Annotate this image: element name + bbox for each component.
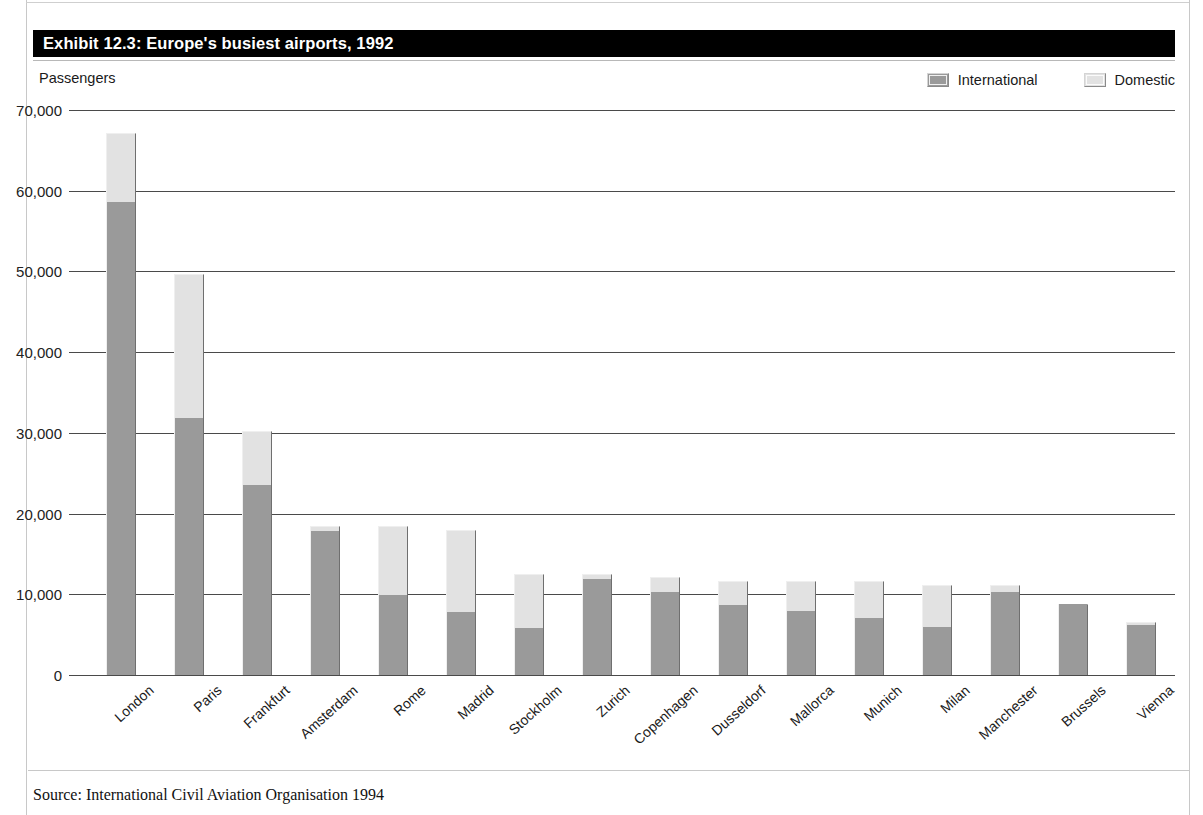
bar-segment-international (855, 618, 883, 675)
y-axis-tick-label: 30,000 (16, 424, 62, 441)
x-axis-label-vienna: Vienna (1134, 682, 1177, 723)
x-axis-label-milan: Milan (937, 682, 973, 716)
bar-amsterdam (310, 526, 340, 675)
bar-madrid (446, 530, 476, 675)
y-axis-title: Passengers (39, 70, 116, 86)
page-border-top (26, 2, 1189, 3)
x-axis-label-london: London (111, 682, 156, 725)
x-axis-label-manchester: Manchester (976, 682, 1041, 743)
bar-segment-domestic (787, 582, 815, 613)
x-axis-label-paris: Paris (190, 682, 224, 715)
title-underline (33, 60, 1175, 61)
exhibit-title-bar: Exhibit 12.3: Europe's busiest airports,… (33, 30, 1175, 57)
bar-paris (174, 274, 204, 675)
y-axis-tick-label: 20,000 (16, 505, 62, 522)
legend-swatch-icon (927, 73, 949, 87)
bar-milan (922, 585, 952, 675)
y-axis-tick-label: 70,000 (16, 102, 62, 119)
x-axis-label-stockholm: Stockholm (505, 682, 564, 738)
bar-mallorca (786, 581, 816, 675)
legend-item: Domestic (1084, 72, 1175, 88)
bar-segment-international (243, 485, 271, 675)
y-axis-tick (69, 675, 87, 676)
x-axis-label-madrid: Madrid (454, 682, 497, 723)
source-divider (28, 770, 1189, 771)
legend-swatch-icon (1084, 73, 1106, 87)
x-axis-label-copenhagen: Copenhagen (630, 682, 700, 748)
x-axis-label-frankfurt: Frankfurt (240, 682, 292, 731)
bar-copenhagen (650, 577, 680, 675)
bar-segment-domestic (447, 531, 475, 613)
y-axis-tick (69, 191, 87, 192)
exhibit-page: Exhibit 12.3: Europe's busiest airports,… (0, 0, 1203, 815)
x-axis-label-mallorca: Mallorca (787, 682, 837, 729)
bar-segment-domestic (651, 578, 679, 593)
bar-segment-international (583, 579, 611, 675)
bar-segment-international (107, 202, 135, 675)
y-axis-tick (69, 352, 87, 353)
bar-segment-international (991, 592, 1019, 675)
y-axis-tick (69, 433, 87, 434)
y-axis-tick (69, 514, 87, 515)
bar-vienna (1126, 622, 1156, 675)
bar-segment-international (515, 628, 543, 675)
bar-segment-international (1059, 604, 1087, 675)
bar-manchester (990, 585, 1020, 675)
bar-segment-domestic (855, 582, 883, 619)
bar-frankfurt (242, 431, 272, 675)
bar-segment-domestic (243, 432, 271, 486)
y-axis-tick (69, 110, 87, 111)
x-axis-label-amsterdam: Amsterdam (297, 682, 361, 742)
y-axis-tick (69, 271, 87, 272)
x-axis-label-brussels: Brussels (1058, 682, 1109, 730)
bar-zurich (582, 574, 612, 675)
bar-segment-domestic (515, 575, 543, 629)
bar-segment-international (175, 418, 203, 675)
legend-item: International (927, 72, 1038, 88)
x-axis-label-zurich: Zurich (593, 682, 633, 720)
bar-stockholm (514, 574, 544, 675)
bar-segment-international (719, 605, 747, 675)
legend-label: Domestic (1115, 72, 1175, 88)
bar-segment-international (379, 595, 407, 675)
bar-dusseldorf (718, 581, 748, 675)
exhibit-title: Exhibit 12.3: Europe's busiest airports,… (43, 34, 393, 53)
bar-segment-international (787, 611, 815, 675)
page-border-right (1189, 0, 1190, 815)
source-note: Source: International Civil Aviation Org… (33, 786, 384, 804)
bar-london (106, 133, 136, 675)
bar-segment-domestic (107, 134, 135, 203)
bar-segment-domestic (175, 275, 203, 419)
x-axis-label-dusseldorf: Dusseldorf (708, 682, 768, 739)
y-axis-tick-label: 60,000 (16, 182, 62, 199)
plot-area: 010,00020,00030,00040,00050,00060,00070,… (87, 100, 1175, 685)
x-axis-label-munich: Munich (860, 682, 904, 724)
bar-munich (854, 581, 884, 675)
chart-legend: InternationalDomestic (927, 70, 1175, 90)
bars-layer (87, 100, 1175, 685)
y-axis-tick (69, 594, 87, 595)
bar-segment-international (923, 627, 951, 675)
x-axis-labels: LondonParisFrankfurtAmsterdamRomeMadridS… (87, 678, 1175, 768)
bar-segment-domestic (719, 582, 747, 606)
y-axis-tick-label: 50,000 (16, 263, 62, 280)
bar-segment-international (1127, 625, 1155, 675)
y-axis-tick-label: 40,000 (16, 344, 62, 361)
bar-segment-international (447, 612, 475, 675)
bar-brussels (1058, 604, 1088, 675)
bar-segment-international (651, 592, 679, 675)
legend-label: International (958, 72, 1038, 88)
y-axis-tick-label: 10,000 (16, 586, 62, 603)
x-axis-label-rome: Rome (390, 682, 428, 719)
page-border-left (26, 0, 27, 815)
bar-segment-international (311, 531, 339, 675)
y-axis-tick-label: 0 (54, 667, 62, 684)
bar-segment-domestic (923, 586, 951, 628)
bar-rome (378, 526, 408, 675)
bar-segment-domestic (379, 527, 407, 596)
